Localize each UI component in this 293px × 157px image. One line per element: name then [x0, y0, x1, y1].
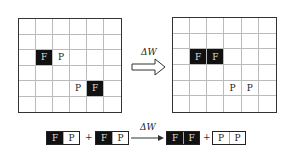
right-grid: FFPP: [172, 17, 277, 113]
equation-term-4: P P: [212, 131, 246, 145]
grid-cell: [87, 97, 104, 113]
grid-cell: [242, 34, 259, 50]
grid-cell: [104, 35, 121, 51]
grid-cell: [104, 81, 121, 97]
hollow-arrow-icon: [131, 57, 167, 77]
arrow-label: ΔW: [141, 47, 157, 57]
grid-cell: [173, 96, 190, 112]
grid-cell: [190, 18, 207, 34]
grid-cell: [53, 35, 70, 51]
grid-cell: [173, 65, 190, 81]
grid-cell: [173, 18, 190, 34]
particle-square: P: [229, 132, 245, 144]
grid-cell: [224, 34, 241, 50]
grid-cell: [259, 65, 276, 81]
grid-cell: [87, 35, 104, 51]
grid-cell: [259, 81, 276, 97]
grid-cell: [190, 81, 207, 97]
grid-cell: [207, 81, 224, 97]
particle-square: P: [63, 132, 79, 144]
grid-cell: [19, 19, 36, 35]
particle-cell: P: [70, 81, 87, 97]
particle-square: P: [112, 132, 128, 144]
grid-cell: [224, 49, 241, 65]
right-arrow-icon: [131, 134, 165, 142]
grid-cell: [36, 97, 53, 113]
grid-cell: [173, 34, 190, 50]
fermion-square: F: [96, 132, 112, 144]
plus-sign: +: [85, 132, 93, 142]
grid-cell: [36, 35, 53, 51]
grid-cell: [207, 18, 224, 34]
equation-arrow: ΔW: [131, 122, 165, 142]
fermion-cell: F: [87, 81, 104, 97]
equation-term-3: F F: [166, 131, 200, 145]
equation-term-2: F P: [95, 131, 129, 145]
grid-cell: [242, 96, 259, 112]
equation-term-1: F P: [46, 131, 80, 145]
grid-cell: [53, 19, 70, 35]
grid-cell: [87, 50, 104, 66]
grid-cell: [19, 50, 36, 66]
fermion-cell: F: [190, 49, 207, 65]
grid-cell: [242, 65, 259, 81]
grid-cell: [36, 81, 53, 97]
transition-arrow: ΔW: [131, 47, 167, 77]
grid-cell: [104, 66, 121, 82]
fermion-cell: F: [207, 49, 224, 65]
grid-cell: [19, 97, 36, 113]
fermion-square: F: [167, 132, 183, 144]
grid-cell: [224, 65, 241, 81]
grid-cell: [53, 66, 70, 82]
grid-cell: [104, 50, 121, 66]
fermion-cell: F: [36, 50, 53, 66]
grid-cell: [87, 66, 104, 82]
grid-cell: [224, 96, 241, 112]
grid-cell: [53, 81, 70, 97]
grid-cell: [207, 34, 224, 50]
grid-cell: [207, 96, 224, 112]
grid-cell: [36, 19, 53, 35]
grid-cell: [173, 81, 190, 97]
fermion-square: F: [183, 132, 199, 144]
grid-cell: [53, 97, 70, 113]
grid-cell: [259, 34, 276, 50]
fermion-square: F: [47, 132, 63, 144]
particle-cell: P: [224, 81, 241, 97]
grid-cell: [87, 19, 104, 35]
grid-cell: [259, 96, 276, 112]
grid-cell: [242, 18, 259, 34]
equation-arrow-label: ΔW: [140, 122, 156, 132]
particle-square: P: [213, 132, 229, 144]
grid-cell: [224, 18, 241, 34]
plus-sign: +: [203, 132, 211, 142]
particle-cell: P: [53, 50, 70, 66]
grid-cell: [242, 49, 259, 65]
grid-cell: [173, 49, 190, 65]
left-grid: FPPF: [18, 18, 122, 113]
grid-cell: [207, 65, 224, 81]
grid-cell: [19, 35, 36, 51]
grid-cell: [190, 34, 207, 50]
grid-cell: [19, 81, 36, 97]
grid-cell: [70, 35, 87, 51]
grid-cell: [259, 49, 276, 65]
grid-cell: [19, 66, 36, 82]
grid-cell: [70, 66, 87, 82]
grid-cell: [259, 18, 276, 34]
grid-cell: [36, 66, 53, 82]
grid-cell: [190, 65, 207, 81]
grid-cell: [190, 96, 207, 112]
particle-cell: P: [242, 81, 259, 97]
grid-cell: [70, 50, 87, 66]
grid-cell: [70, 19, 87, 35]
grid-cell: [104, 19, 121, 35]
grid-cell: [104, 97, 121, 113]
grid-cell: [70, 97, 87, 113]
